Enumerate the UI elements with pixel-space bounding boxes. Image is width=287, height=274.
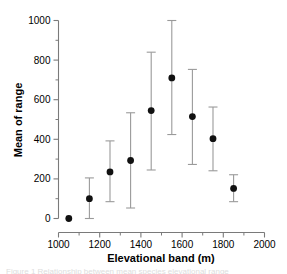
data-point-group [147, 52, 156, 170]
x-tick-label: 1400 [130, 239, 153, 250]
data-point-marker [127, 157, 134, 164]
data-point-group [126, 113, 135, 208]
x-tick-label: 1800 [212, 239, 235, 250]
data-point-group [229, 175, 238, 202]
data-point-marker [168, 75, 175, 82]
x-tick-label: 1200 [89, 239, 112, 250]
scatter-plot: 02004006008001000 1000120014001600180020… [0, 0, 287, 274]
data-point-group [167, 21, 176, 135]
data-point-marker [210, 135, 217, 142]
x-tick-label: 2000 [253, 239, 276, 250]
data-point-marker [148, 107, 155, 114]
data-point-group [188, 69, 197, 164]
data-point-marker [230, 185, 237, 192]
data-point-group [85, 178, 94, 219]
y-axis-title: Mean of range [12, 83, 24, 158]
x-tick-label: 1600 [171, 239, 194, 250]
y-axis-tick-labels: 02004006008001000 [28, 15, 51, 224]
figure-caption-ghost: Figure 1 Relationship between mean speci… [6, 267, 281, 274]
x-axis-title: Elevational band (m) [107, 252, 215, 264]
data-series-mean-of-range [65, 21, 238, 222]
y-tick-label: 400 [34, 134, 51, 145]
data-point-marker [189, 113, 196, 120]
data-point-marker [107, 169, 114, 176]
data-point-group [209, 107, 218, 171]
figure-container: 02004006008001000 1000120014001600180020… [0, 0, 287, 274]
data-point-group [65, 215, 72, 222]
x-axis-tick-labels: 100012001400160018002000 [47, 239, 276, 250]
y-tick-label: 800 [34, 55, 51, 66]
data-point-marker [65, 215, 72, 222]
data-point-group [106, 141, 115, 202]
y-tick-label: 200 [34, 173, 51, 184]
y-tick-label: 600 [34, 94, 51, 105]
x-tick-label: 1000 [47, 239, 70, 250]
y-tick-label: 1000 [28, 15, 51, 26]
data-point-marker [86, 195, 93, 202]
axes-lines [54, 21, 265, 238]
y-tick-label: 0 [45, 213, 51, 224]
